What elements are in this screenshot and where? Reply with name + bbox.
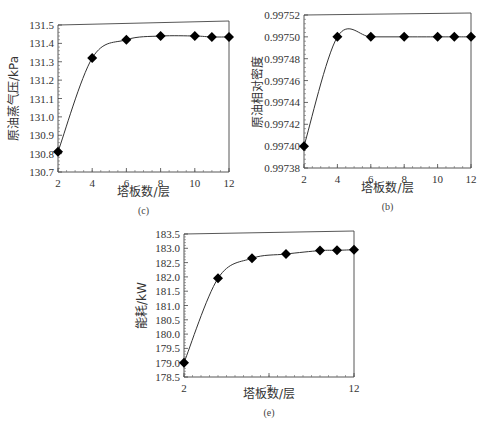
x-tick-label: 12 <box>224 177 235 189</box>
y-tick-label: 181.0 <box>155 300 180 312</box>
y-tick-label: 131.2 <box>29 74 54 86</box>
data-point-marker <box>156 31 166 41</box>
data-point-marker <box>213 273 223 283</box>
data-point-marker <box>207 32 217 42</box>
data-point-marker <box>281 249 291 259</box>
x-tick-label: 2 <box>181 382 187 394</box>
y-tick-label: 0.99748 <box>264 53 300 65</box>
y-tick-label: 130.8 <box>29 148 54 160</box>
data-point-marker <box>121 35 131 45</box>
data-point-marker <box>190 31 200 41</box>
data-point-marker <box>224 32 234 42</box>
data-point-marker <box>332 32 342 42</box>
x-tick-label: 10 <box>189 177 201 189</box>
y-tick-label: 183.5 <box>155 228 180 240</box>
data-point-marker <box>53 147 63 157</box>
y-tick-label: 0.99742 <box>264 118 300 130</box>
y-tick-label: 179.0 <box>155 357 180 369</box>
panel-label: (c) <box>138 205 149 217</box>
y-tick-label: 131.5 <box>29 19 54 31</box>
data-point-marker <box>179 358 189 368</box>
plot-frame <box>184 231 354 377</box>
data-line <box>184 250 354 363</box>
data-line <box>58 36 229 152</box>
plot-frame <box>304 13 471 168</box>
y-tick-label: 0.99744 <box>264 96 300 108</box>
data-point-marker <box>299 141 309 151</box>
chart-panel-c: 130.7130.8130.9131.0131.1131.2131.3131.4… <box>6 19 235 217</box>
panel-label: (b) <box>382 201 394 213</box>
figure-canvas: 130.7130.8130.9131.0131.1131.2131.3131.4… <box>0 0 486 431</box>
x-tick-label: 12 <box>466 173 477 185</box>
x-axis-title: 塔板数/层 <box>361 180 413 195</box>
data-point-marker <box>247 253 257 263</box>
y-tick-label: 130.9 <box>29 129 54 141</box>
y-tick-label: 0.99752 <box>264 9 300 21</box>
x-tick-label: 10 <box>432 173 444 185</box>
data-point-marker <box>433 32 443 42</box>
y-tick-label: 0.99750 <box>264 31 300 43</box>
x-axis-title: 塔板数/层 <box>117 184 169 199</box>
panel-label: (e) <box>263 407 274 419</box>
x-tick-label: 2 <box>301 173 307 185</box>
plot-frame <box>58 21 229 172</box>
x-tick-label: 2 <box>55 177 61 189</box>
y-axis-title: 能耗/kW <box>135 282 149 329</box>
y-tick-label: 131.3 <box>29 56 54 68</box>
y-tick-label: 182.5 <box>155 257 180 269</box>
y-tick-label: 180.5 <box>155 314 180 326</box>
data-point-marker <box>332 245 342 255</box>
x-tick-label: 12 <box>349 382 360 394</box>
chart-panel-b: 0.997380.997400.997420.997440.997460.997… <box>250 9 477 213</box>
y-tick-label: 0.99746 <box>264 75 300 87</box>
y-tick-label: 180.0 <box>155 328 180 340</box>
y-tick-label: 181.5 <box>155 285 180 297</box>
y-tick-label: 131.4 <box>29 37 54 49</box>
data-point-marker <box>449 32 459 42</box>
data-point-marker <box>87 53 97 63</box>
y-tick-label: 131.0 <box>29 111 54 123</box>
data-point-marker <box>315 246 325 256</box>
y-tick-label: 130.7 <box>29 166 54 178</box>
data-point-marker <box>466 32 476 42</box>
data-point-marker <box>349 245 359 255</box>
data-point-marker <box>399 32 409 42</box>
y-tick-label: 183.0 <box>155 242 180 254</box>
y-tick-label: 178.5 <box>155 371 180 383</box>
y-tick-label: 182.0 <box>155 271 180 283</box>
x-tick-label: 4 <box>89 177 95 189</box>
y-tick-label: 179.5 <box>155 342 180 354</box>
y-tick-label: 131.1 <box>29 93 54 105</box>
y-axis-title: 原油蒸气压/kPa <box>6 56 21 141</box>
data-point-marker <box>366 32 376 42</box>
y-axis-title: 原油相对密度 <box>250 56 265 128</box>
x-axis-title: 塔板数/层 <box>243 386 295 401</box>
data-line <box>304 29 471 146</box>
y-tick-label: 0.99738 <box>264 162 300 174</box>
chart-panel-e: 178.5179.0179.5180.0180.5181.0181.5182.0… <box>135 228 360 419</box>
y-tick-label: 0.99740 <box>264 140 300 152</box>
x-tick-label: 4 <box>335 173 341 185</box>
